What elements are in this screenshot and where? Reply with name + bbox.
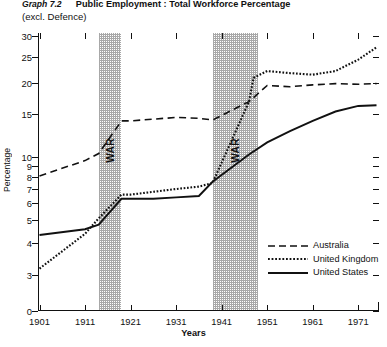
y-tick-label: 4 [27, 238, 32, 249]
y-tick-label: 7 [27, 184, 32, 195]
y-tick-right [373, 311, 379, 312]
legend-key-solid [268, 268, 308, 278]
series-line-united-states [40, 105, 377, 235]
legend-item-australia: Australia [268, 239, 378, 253]
y-tick-label: 0 [27, 306, 32, 317]
y-tick-label: 8 [27, 172, 32, 183]
graph-number: Graph 7.2 [22, 0, 62, 9]
y-tick-label: 5 [27, 215, 32, 226]
chart-title-block: Graph 7.2 Public Employment : Total Work… [22, 0, 384, 23]
legend-key-dotted [268, 254, 308, 264]
y-tick-label: 25 [22, 52, 32, 63]
y-tick-label: 20 [22, 78, 32, 89]
x-tick-label: 1941 [211, 316, 232, 327]
y-axis-title: Percentage [2, 148, 12, 192]
chart-legend: Australia United Kingdom United States [268, 239, 378, 280]
y-tick-label: 30 [22, 31, 32, 42]
x-tick-label: 1971 [348, 316, 369, 327]
legend-label-united-states: United States [313, 266, 368, 280]
x-tick-label: 1921 [120, 316, 141, 327]
y-tick-label: 3 [27, 270, 32, 281]
x-axis-title: Years [0, 328, 387, 338]
chart-root: Graph 7.2 Public Employment : Total Work… [0, 0, 387, 347]
x-tick-label: 1911 [75, 316, 95, 327]
x-tick-label: 1951 [257, 316, 278, 327]
legend-label-australia: Australia [313, 239, 349, 253]
y-tick [32, 311, 38, 312]
chart-title-line: Graph 7.2 Public Employment : Total Work… [22, 0, 384, 11]
y-tick-label: 9 [27, 161, 32, 172]
series-line-united-kingdom [40, 47, 377, 268]
legend-item-united-kingdom: United Kingdom [268, 253, 378, 267]
legend-item-united-states: United States [268, 266, 378, 280]
series-line-australia [40, 84, 377, 176]
y-tick-label: 15 [22, 109, 32, 120]
chart-subtitle: (excl. Defence) [22, 11, 384, 23]
x-tick-label: 1961 [302, 316, 323, 327]
chart-title-main: Public Employment : Total Workforce Perc… [76, 0, 291, 9]
legend-label-united-kingdom: United Kingdom [313, 253, 378, 267]
x-tick-label: 1901 [29, 316, 50, 327]
y-tick-label: 6 [27, 198, 32, 209]
x-tick-label: 1931 [166, 316, 187, 327]
legend-key-dashed [268, 241, 308, 251]
